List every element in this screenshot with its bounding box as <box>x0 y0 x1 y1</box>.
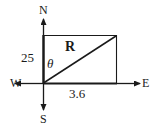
angle-theta-label: θ <box>47 57 53 70</box>
compass-label-south: S <box>40 113 47 125</box>
compass-label-east: E <box>142 77 149 89</box>
compass-label-west: W <box>10 77 21 89</box>
compass-label-north: N <box>39 4 48 16</box>
vector-diagram: N S W E 25 3.6 R θ <box>0 0 158 129</box>
east-component-value: 3.6 <box>69 87 85 100</box>
resultant-vector-line <box>44 36 117 83</box>
north-component-value: 25 <box>21 51 34 64</box>
resultant-vector-label: R <box>65 40 75 54</box>
